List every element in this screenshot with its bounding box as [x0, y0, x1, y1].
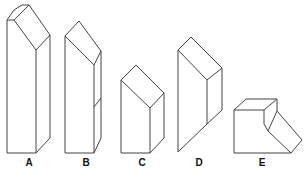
label-e: E: [259, 157, 266, 168]
label-a: A: [25, 157, 32, 168]
label-b: B: [82, 157, 89, 168]
shape-c: [121, 65, 164, 153]
label-c: C: [138, 157, 145, 168]
shape-d: [178, 37, 222, 152]
shape-e: [234, 99, 302, 153]
shapes-figure: [0, 0, 308, 173]
shape-a: [7, 5, 50, 153]
shape-b: [65, 21, 101, 153]
label-d: D: [195, 157, 202, 168]
